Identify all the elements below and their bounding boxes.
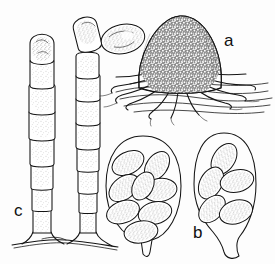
label-c: c xyxy=(14,201,23,220)
illustration-canvas: c xyxy=(0,0,275,264)
figure-plate: c xyxy=(0,0,275,264)
label-b: b xyxy=(193,223,202,242)
label-a: a xyxy=(224,31,234,50)
